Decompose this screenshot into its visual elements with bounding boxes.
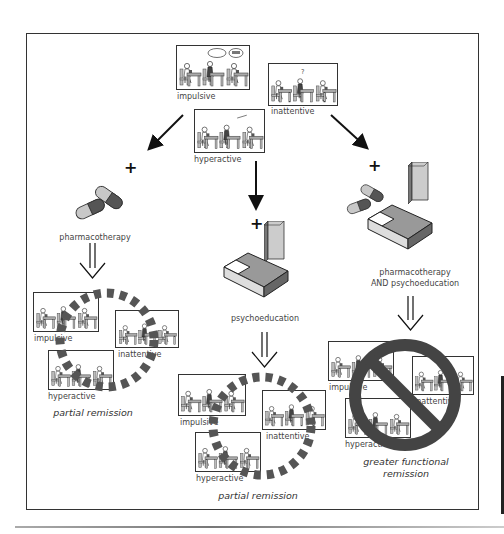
prohibition-sign-icon [345, 335, 465, 455]
couch-icon [222, 251, 290, 299]
combined-treatment-label-1: pharmacotherapy [379, 268, 450, 277]
combined-treatment-label-2: AND psychoeducation [371, 279, 459, 288]
dashed-circle-icon [205, 364, 320, 489]
outcome-right-label-1: greater functional [363, 456, 448, 467]
outcome-left-label: partial remission [53, 407, 133, 418]
book-icon-right [408, 162, 430, 206]
plus-left: + [124, 160, 137, 176]
dashed-circle-icon [52, 280, 162, 400]
psychoeducation-label: psychoeducation [231, 314, 299, 323]
double-arrow-center [252, 332, 277, 367]
double-arrow-left [80, 243, 105, 278]
outcome-center-label: partial remission [218, 490, 298, 501]
outcome-right-label-2: remission [383, 468, 429, 479]
plus-right: + [368, 158, 381, 174]
pharmacotherapy-label: pharmacotherapy [59, 233, 130, 242]
pill-capsules-icon [70, 180, 130, 225]
plus-center: + [250, 216, 263, 232]
double-arrow-right [398, 296, 423, 330]
couch-icon-right [366, 203, 434, 251]
